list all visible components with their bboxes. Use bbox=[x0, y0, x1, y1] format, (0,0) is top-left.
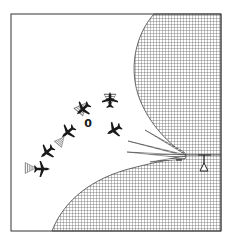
aircraft-icon bbox=[36, 141, 59, 164]
lower-masked-region bbox=[52, 155, 221, 231]
jamming-diagram: 0 bbox=[0, 0, 234, 244]
upper-masked-region bbox=[134, 14, 221, 155]
aircraft-icon bbox=[103, 119, 125, 141]
position-marker: 0 bbox=[84, 117, 92, 130]
jammer-cone-icon bbox=[54, 134, 68, 148]
aircraft-icon bbox=[34, 161, 50, 177]
